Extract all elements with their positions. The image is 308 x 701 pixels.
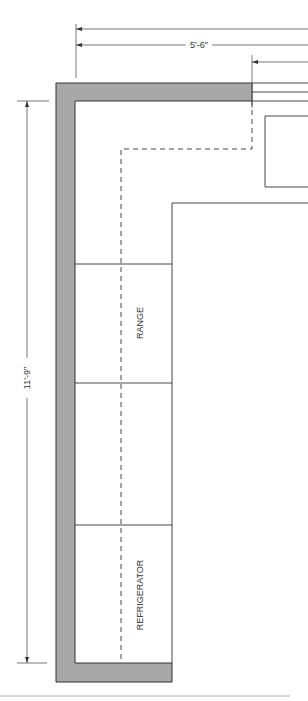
floor-plan: 5'-6" 11'-9" RANGE REFRIGERATOR [0, 0, 308, 701]
dimension-top-overall [76, 27, 308, 31]
dimension-vertical: 11'-9" [17, 101, 49, 663]
range-label: RANGE [135, 307, 145, 339]
arrow-left-icon [76, 27, 82, 31]
arrow-left-icon [76, 43, 82, 47]
arrow-left-icon [252, 60, 258, 64]
dimension-label-11ft9: 11'-9" [22, 367, 32, 389]
dimension-label-5ft6: 5'-6" [190, 40, 208, 50]
refrigerator-label: REFRIGERATOR [135, 559, 145, 630]
arrow-down-icon [25, 657, 29, 663]
dimension-top-wall: 5'-6" [76, 40, 308, 50]
arrow-up-icon [25, 101, 29, 107]
counter-edge [172, 203, 308, 663]
dimension-top-inner [252, 60, 308, 64]
wall [56, 83, 252, 682]
sink [265, 116, 308, 187]
